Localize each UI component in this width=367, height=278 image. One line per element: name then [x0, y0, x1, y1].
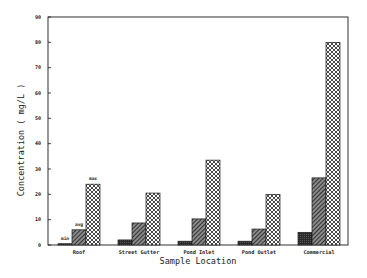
bar-min [58, 244, 72, 245]
y-tick-label: 50 [35, 115, 41, 121]
y-axis: 0102030405060708090 [35, 14, 51, 248]
annotation-avg: avg [75, 222, 83, 227]
annotation-max: max [89, 176, 97, 181]
x-tick-label: Pond Inlet [183, 249, 214, 255]
bar-min [238, 241, 252, 245]
x-tick-label: Street Gutter [119, 249, 160, 255]
bar-max [326, 42, 340, 245]
bar-group [118, 193, 160, 245]
bar-min [178, 241, 192, 245]
x-tick-label: Commercial [303, 249, 334, 255]
y-tick-label: 30 [35, 166, 41, 172]
x-axis-title: Sample Location [160, 256, 237, 266]
bar-max [86, 184, 100, 245]
bar-max [206, 160, 220, 245]
y-tick-label: 10 [35, 216, 41, 222]
bar-min [118, 240, 132, 245]
bar-max [266, 194, 280, 245]
bar-max [146, 193, 160, 245]
bar-avg [72, 230, 86, 245]
y-tick-label: 60 [35, 90, 41, 96]
bar-min [298, 232, 312, 245]
x-axis: RoofStreet GutterPond InletPond OutletCo… [73, 249, 335, 255]
y-tick-label: 0 [38, 242, 41, 248]
bar-avg [252, 229, 266, 245]
y-axis-title: Concentration ( mg/L ) [16, 84, 26, 197]
bar-avg [192, 219, 206, 245]
bar-groups: minavgmax [58, 42, 340, 245]
bar-avg [132, 223, 146, 245]
bar-chart: 0102030405060708090 minavgmax RoofStreet… [0, 0, 367, 278]
x-tick-label: Roof [73, 249, 86, 255]
bar-avg [312, 178, 326, 245]
annotation-min: min [61, 236, 69, 241]
y-tick-label: 70 [35, 64, 41, 70]
bar-group [238, 194, 280, 245]
bar-group [298, 42, 340, 245]
y-tick-label: 20 [35, 191, 41, 197]
y-tick-label: 80 [35, 39, 41, 45]
y-tick-label: 40 [35, 140, 41, 146]
x-tick-label: Pond Outlet [242, 249, 276, 255]
bar-group [178, 160, 220, 245]
y-tick-label: 90 [35, 14, 41, 20]
